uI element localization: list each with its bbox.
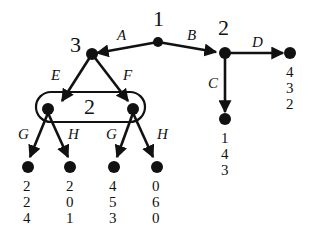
action-H1: H: [67, 126, 80, 142]
leaf-C: [219, 113, 231, 125]
svg-text:2: 2: [286, 96, 294, 112]
player-label-infoset: 2: [84, 94, 95, 119]
edge-B: [158, 42, 216, 52]
svg-text:1: 1: [221, 130, 229, 146]
payoff-EH: 2 0 1: [66, 178, 74, 226]
svg-text:3: 3: [286, 80, 294, 96]
svg-text:0: 0: [152, 210, 160, 226]
svg-text:4: 4: [286, 64, 294, 80]
leaf-FG: [108, 161, 120, 173]
leaf-D: [284, 47, 296, 59]
action-G1: G: [18, 126, 29, 142]
payoff-D: 4 3 2: [286, 64, 294, 112]
player-label-root: 1: [153, 6, 164, 31]
action-D: D: [251, 34, 263, 50]
action-C: C: [208, 75, 219, 91]
payoff-FG: 4 5 3: [109, 178, 117, 226]
action-H2: H: [156, 126, 169, 142]
payoff-C: 1 4 3: [221, 130, 229, 178]
svg-text:4: 4: [221, 146, 229, 162]
svg-text:2: 2: [66, 178, 74, 194]
leaf-FH: [151, 161, 163, 173]
svg-text:2: 2: [23, 178, 31, 194]
edge-G1: [30, 113, 48, 157]
leaf-EG: [22, 161, 34, 173]
payoff-FH: 0 6 0: [152, 178, 160, 226]
action-A: A: [116, 27, 127, 43]
leaf-EH: [64, 161, 76, 173]
action-E: E: [50, 67, 60, 83]
game-tree: 1 3 2 2 A B D C E F G H G H 4 3 2 1 4 3 …: [0, 0, 324, 238]
svg-text:4: 4: [23, 210, 31, 226]
svg-text:0: 0: [66, 194, 74, 210]
action-B: B: [187, 27, 196, 43]
svg-text:4: 4: [109, 178, 117, 194]
action-G2: G: [106, 126, 117, 142]
node-root: [153, 37, 163, 47]
player-label-right: 2: [218, 15, 229, 40]
edge-A: [97, 42, 158, 53]
payoff-EG: 2 2 4: [23, 178, 31, 226]
svg-text:3: 3: [221, 162, 229, 178]
player-label-left: 3: [70, 32, 81, 57]
node-infoset-right: [127, 103, 139, 115]
node-player2-right: [219, 47, 231, 59]
svg-text:6: 6: [152, 194, 160, 210]
edge-G2: [117, 113, 133, 157]
svg-text:3: 3: [109, 210, 117, 226]
svg-text:2: 2: [23, 194, 31, 210]
node-infoset-left: [42, 103, 54, 115]
svg-text:5: 5: [109, 194, 117, 210]
node-player3: [86, 48, 98, 60]
svg-text:1: 1: [66, 210, 74, 226]
edge-H1: [48, 113, 68, 157]
action-F: F: [122, 67, 133, 83]
svg-text:0: 0: [152, 178, 160, 194]
